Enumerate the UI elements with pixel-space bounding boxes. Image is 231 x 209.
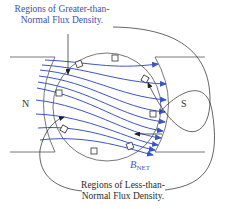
south-pole-piece: [155, 57, 205, 152]
callout-lines: [40, 27, 215, 191]
greater-flux-label-line1: Regions of Greater-than-: [12, 4, 112, 15]
less-flux-label-line1: Regions of Less-than-: [80, 180, 166, 191]
bnet-subscript: NET: [136, 164, 150, 172]
south-pole-label: S: [181, 98, 187, 109]
less-flux-label: Regions of Less-than- Normal Flux Densit…: [80, 180, 166, 202]
flux-lines: [36, 60, 166, 155]
greater-flux-label-line2: Normal Flux Density.: [12, 15, 112, 26]
north-pole-label: N: [22, 98, 29, 109]
diagram-canvas: [0, 0, 231, 209]
bnet-vector-label: BNET: [130, 159, 150, 172]
less-flux-label-line2: Normal Flux Density.: [80, 191, 166, 202]
armature-reaction-diagram: Regions of Greater-than- Normal Flux Den…: [0, 0, 231, 209]
greater-flux-label: Regions of Greater-than- Normal Flux Den…: [12, 4, 112, 26]
